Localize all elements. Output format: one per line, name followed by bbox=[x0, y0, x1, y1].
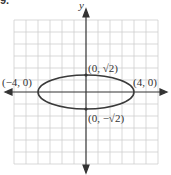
top-vertex-label: (0, √2) bbox=[88, 62, 118, 75]
ellipse-graph: y (0, √2) (−4, 0) (4, 0) (0, −√2) bbox=[0, 0, 171, 175]
y-axis-top-arrow-icon bbox=[83, 9, 89, 17]
right-vertex-label: (4, 0) bbox=[133, 76, 157, 89]
left-vertex-label: (−4, 0) bbox=[2, 76, 32, 89]
x-axis-left-arrow-icon bbox=[5, 89, 12, 95]
y-axis-bottom-arrow-icon bbox=[83, 165, 89, 173]
y-axis-label: y bbox=[78, 0, 84, 11]
bottom-vertex-label: (0, −√2) bbox=[88, 112, 124, 125]
x-axis-right-arrow-icon bbox=[160, 89, 167, 95]
axes bbox=[5, 9, 167, 173]
